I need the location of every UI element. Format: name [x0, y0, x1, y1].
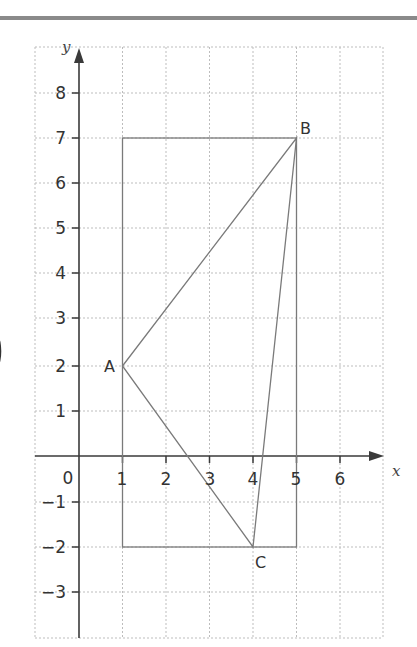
svg-text:4: 4 — [248, 469, 259, 489]
svg-text:−1: −1 — [41, 492, 66, 512]
svg-text:2: 2 — [55, 356, 66, 376]
x-axis-label: x — [392, 462, 401, 480]
y-axis-arrow-icon — [74, 48, 84, 63]
ticks — [72, 93, 340, 592]
svg-text:2: 2 — [161, 469, 172, 489]
point-c-label: C — [255, 553, 266, 572]
svg-text:1: 1 — [55, 401, 66, 421]
svg-text:−2: −2 — [41, 537, 66, 557]
y-axis-label: y — [61, 38, 71, 56]
svg-text:4: 4 — [55, 263, 66, 283]
svg-text:1: 1 — [117, 469, 128, 489]
svg-text:3: 3 — [55, 308, 66, 328]
axes — [35, 60, 372, 638]
svg-text:5: 5 — [291, 469, 302, 489]
svg-text:6: 6 — [55, 173, 66, 193]
x-tick-labels: 0 1 2 3 4 5 6 — [63, 468, 346, 489]
point-b-label: B — [300, 119, 311, 138]
svg-text:0: 0 — [63, 468, 74, 488]
svg-text:7: 7 — [55, 128, 66, 148]
svg-text:3: 3 — [205, 469, 216, 489]
svg-text:−3: −3 — [41, 582, 66, 602]
coordinate-grid: 8 7 6 5 4 3 2 1 −1 −2 −3 0 1 2 3 4 5 6 y… — [0, 0, 417, 647]
svg-text:5: 5 — [55, 218, 66, 238]
svg-text:6: 6 — [335, 469, 346, 489]
svg-text:8: 8 — [55, 83, 66, 103]
y-tick-labels: 8 7 6 5 4 3 2 1 −1 −2 −3 — [41, 83, 66, 602]
point-a-label: A — [104, 357, 115, 376]
x-axis-arrow-icon — [369, 451, 384, 461]
grid-lines — [35, 47, 383, 638]
